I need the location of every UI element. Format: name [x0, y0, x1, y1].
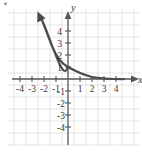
y-tick-label: -2 — [57, 99, 65, 109]
x-tick-label: 4 — [114, 84, 119, 94]
x-axis-label: x — [137, 74, 142, 85]
x-tick-label: -2 — [40, 84, 48, 94]
exponential-graph-figure: ∗ — [0, 0, 142, 153]
x-tick-labels: -4 -3 -2 -1 1 2 3 4 — [16, 84, 119, 94]
y-tick-label: -3 — [57, 111, 65, 121]
x-tick-label: 1 — [78, 84, 83, 94]
y-tick-label: -4 — [57, 123, 65, 133]
y-tick-label: 3 — [57, 39, 62, 49]
y-tick-label: 4 — [57, 27, 62, 37]
y-tick-label: 1 — [57, 63, 62, 73]
y-axis-label: y — [70, 2, 76, 13]
y-tick-labels: 4 3 2 1 -1 -2 -3 -4 — [57, 27, 65, 134]
x-tick-label: -3 — [28, 84, 36, 94]
x-tick-label: 3 — [102, 84, 107, 94]
y-tick-label: 2 — [57, 51, 62, 61]
x-tick-label: 2 — [90, 84, 95, 94]
x-tick-label: -4 — [16, 84, 24, 94]
y-tick-label: -1 — [57, 87, 65, 97]
coordinate-plane-svg: -4 -3 -2 -1 1 2 3 4 4 3 2 1 -1 -2 -3 -4 … — [0, 0, 142, 153]
